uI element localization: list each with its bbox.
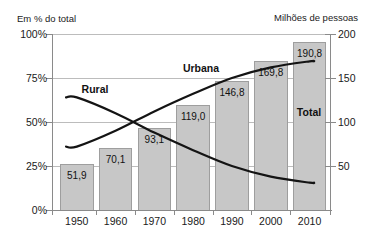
right-axis-line xyxy=(330,34,331,210)
series-label-urbana: Urbana xyxy=(183,62,219,74)
bar-value-label: 190,8 xyxy=(293,48,327,59)
bar-value-label: 70,1 xyxy=(99,154,133,165)
bar-value-label: 93,1 xyxy=(138,134,172,145)
left-axis-tick-label: 0% xyxy=(0,204,47,216)
left-axis-tick-label: 100% xyxy=(0,28,47,40)
right-axis-tick-label: 150 xyxy=(338,72,356,84)
total-bar xyxy=(293,42,327,210)
right-axis-tick-label: 200 xyxy=(338,28,356,40)
population-chart: Em % do total Milhões de pessoas 100%75%… xyxy=(0,0,370,241)
gridline xyxy=(52,34,330,35)
left-axis-tick-label: 75% xyxy=(0,72,47,84)
bar-value-label: 51,9 xyxy=(60,170,94,181)
bar-value-label: 119,0 xyxy=(176,111,210,122)
bottom-axis-line xyxy=(46,210,332,211)
x-axis-tick-label: 1980 xyxy=(181,215,204,227)
x-axis-tick-label: 2000 xyxy=(259,215,282,227)
total-bar xyxy=(254,61,288,210)
bar-value-label: 146,8 xyxy=(215,87,249,98)
total-bar xyxy=(215,81,249,210)
x-axis-tick-label: 1990 xyxy=(220,215,243,227)
right-axis-tick-label: 100 xyxy=(338,116,356,128)
x-axis-tick-label: 2010 xyxy=(298,215,321,227)
left-axis-title: Em % do total xyxy=(17,13,76,24)
right-axis-tick-label: 50 xyxy=(338,160,350,172)
x-axis-tick-label: 1970 xyxy=(143,215,166,227)
x-axis-tick-label: 1950 xyxy=(65,215,88,227)
left-axis-line xyxy=(52,34,53,210)
gridline xyxy=(52,78,330,79)
series-label-rural: Rural xyxy=(82,83,109,95)
left-axis-tick-label: 50% xyxy=(0,116,47,128)
bar-value-label: 169,8 xyxy=(254,67,288,78)
right-axis-title: Milhões de pessoas xyxy=(274,12,358,23)
x-axis-tick-label: 1960 xyxy=(104,215,127,227)
left-axis-tick-label: 25% xyxy=(0,160,47,172)
series-label-total: Total xyxy=(297,106,321,118)
